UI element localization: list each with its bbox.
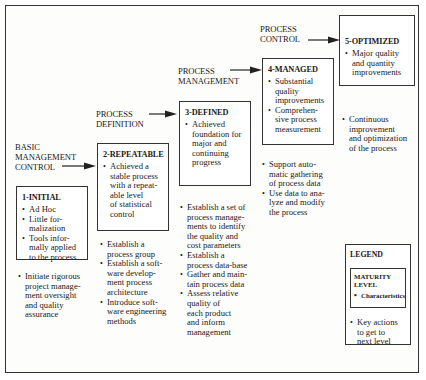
key-action: Establish aprocess group	[100, 240, 180, 259]
characteristic: Tools infor-mally appliedto the process	[22, 234, 83, 263]
level-2-key-actions: Establish aprocess group Establish a sof…	[100, 240, 180, 326]
arrow-right-icon	[230, 66, 262, 74]
characteristic: Comprehen-sive processmeasurement	[268, 106, 329, 135]
level-5-key-actions: Continuousimprovementand optimizationof …	[342, 115, 422, 153]
stage-label-line: MANAGEMENT	[178, 76, 239, 86]
level-title: 3-DEFINED	[185, 108, 246, 117]
key-action: Gather and main-tain process data	[180, 270, 262, 289]
key-action: Introduce soft-ware engineeringmethods	[100, 298, 180, 327]
legend-box-title: MATURITYLEVEL	[354, 273, 402, 289]
legend-maturity-level-box: MATURITYLEVEL Characteristics	[350, 268, 406, 308]
key-action: Establish a set ofprocess manage-ments t…	[180, 203, 262, 251]
key-action: Initiate rigorousproject manage-ment ove…	[18, 272, 98, 320]
level-3-defined-box: 3-DEFINED Achievedfoundation formajor an…	[179, 101, 251, 186]
characteristic: Little for-malization	[22, 215, 83, 234]
key-action: Continuousimprovementand optimizationof …	[342, 115, 422, 153]
level-title: 2-REPEATABLE	[103, 150, 164, 159]
level-1-initial-box: 1-INITIAL Ad Hoc Little for-malization T…	[16, 186, 88, 260]
key-action: Assess relativequality ofeach productand…	[180, 289, 262, 337]
level-2-repeatable-box: 2-REPEATABLE Achieved astable processwit…	[97, 143, 169, 231]
level-4-key-actions: Support auto-matic gatheringof process d…	[262, 160, 344, 218]
stage-label-line: CONTROL	[260, 34, 300, 44]
stage-label-line: MANAGEMENT	[15, 152, 76, 162]
legend-key-action: Key actionsto get tonext level	[350, 318, 410, 347]
stage-process-definition: PROCESS DEFINITION	[96, 109, 144, 129]
characteristic: Achieved astable processwith a repeat-ab…	[103, 162, 164, 220]
characteristic: Major qualityand quantityimprovements	[345, 49, 410, 78]
level-title: 1-INITIAL	[22, 193, 83, 202]
level-1-key-actions: Initiate rigorousproject manage-ment ove…	[18, 272, 98, 320]
key-action: Use data to ana-lyze and modifythe proce…	[262, 189, 344, 218]
stage-process-control: PROCESS CONTROL	[260, 24, 300, 44]
stage-label-line: PROCESS	[260, 24, 300, 34]
characteristic: Achievedfoundation formajor andcontinuin…	[185, 120, 246, 168]
legend-characteristics: Characteristics	[354, 291, 402, 300]
characteristic: Substantialqualityimprovements	[268, 77, 329, 106]
legend-title: LEGEND	[350, 250, 406, 259]
level-4-managed-box: 4-MANAGED Substantialqualityimprovements…	[262, 58, 334, 145]
stage-label-line: PROCESS	[96, 109, 144, 119]
key-action: Establish aprocess data-base	[180, 251, 262, 270]
level-title: 5-OPTIMIZED	[345, 37, 410, 46]
arrow-right-icon	[308, 36, 340, 44]
key-action: Support auto-matic gatheringof process d…	[262, 160, 344, 189]
stage-label-line: BASIC	[15, 142, 76, 152]
legend-key-actions: Key actionsto get tonext level	[350, 318, 410, 347]
arrow-right-icon	[149, 110, 177, 118]
level-3-key-actions: Establish a set ofprocess manage-ments t…	[180, 203, 262, 337]
arrow-right-icon	[62, 162, 96, 170]
level-title: 4-MANAGED	[268, 65, 329, 74]
stage-label-line: DEFINITION	[96, 119, 144, 129]
level-5-optimized-box: 5-OPTIMIZED Major qualityand quantityimp…	[339, 15, 415, 86]
key-action: Establish a soft-ware develop-ment proce…	[100, 259, 180, 297]
